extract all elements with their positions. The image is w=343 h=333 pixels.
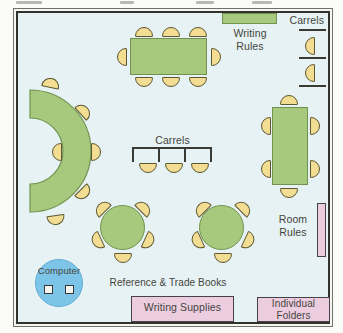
carrel-divider [132,147,134,162]
computer-icon [65,285,74,294]
carrels-wall-label: Carrels [284,14,324,27]
rect-table-top [130,38,207,75]
writing-rules-line2: Rules [220,40,280,53]
carrel-divider [299,29,326,31]
room-rules-label: Room Rules [272,213,314,238]
carrel-divider [184,147,186,162]
individual-folders-line2: Folders [257,310,330,322]
computer-icon [44,285,53,294]
carrel-divider [299,57,326,59]
carrel-divider [210,147,212,162]
computer-label: Computer [35,265,83,278]
rect-table-right [272,107,308,185]
cropped-text-fragment [16,1,42,4]
round-table-left [100,205,145,250]
reference-books-label: Reference & Trade Books [105,277,231,290]
individual-folders-line1: Individual [257,298,330,310]
carrels-center-label: Carrels [145,134,200,147]
room-rules-line2: Rules [272,226,314,239]
cropped-text-fragment [120,1,134,4]
carrel-desk-line [132,147,212,149]
classroom-layout-diagram: Carrels Writing Rules Carrels Room Rules… [0,0,343,333]
carrel-divider [299,85,326,87]
cropped-text-fragment [196,1,214,4]
carrel-divider [158,147,160,162]
writing-supplies-label: Writing Supplies [131,301,234,314]
room-rules-board [317,203,326,257]
individual-folders-label: Individual Folders [257,298,330,321]
room-rules-line1: Room [272,213,314,226]
writing-rules-shelf [222,13,277,24]
round-table-right [199,205,244,250]
writing-rules-line1: Writing [220,27,280,40]
cropped-text-fragment [252,1,272,4]
writing-rules-label: Writing Rules [220,27,280,52]
